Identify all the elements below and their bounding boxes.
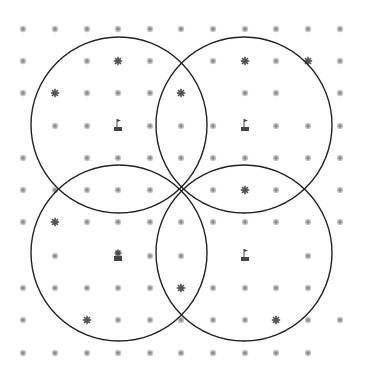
sensor-node-icon (84, 123, 90, 129)
sensor-node-icon (147, 26, 153, 32)
sensor-node-icon (305, 285, 311, 291)
sensor-node-icon (242, 317, 248, 323)
sensor-node-icon (20, 350, 26, 356)
sensor-node-icon (273, 90, 279, 96)
coverage-circles (31, 37, 332, 341)
sensor-node-icon (84, 58, 90, 64)
sensor-node-icon (337, 123, 343, 129)
sensor-node-icon (273, 285, 279, 291)
sensor-node-icon (305, 219, 311, 225)
sensor-node-icon (52, 350, 58, 356)
sensor-node-icon (20, 219, 26, 225)
sensor-node-icon (20, 155, 26, 161)
sensor-node-icon (242, 285, 248, 291)
sensor-node-icon (115, 219, 121, 225)
flag-with-star-icon (114, 250, 122, 262)
sensor-node-icon (337, 187, 343, 193)
sensor-node-icon (147, 253, 153, 259)
flag-icon (241, 119, 249, 131)
sensor-node-icon (84, 285, 90, 291)
sensor-node-icon (115, 155, 121, 161)
sensor-node-icon (178, 253, 184, 259)
sensor-node-icon (273, 58, 279, 64)
sensor-node-icon (115, 350, 121, 356)
sensor-node-icon (178, 219, 184, 225)
sensor-node-icon (242, 26, 248, 32)
star-node-icon (241, 57, 249, 65)
sensor-node-icon (20, 26, 26, 32)
sensor-node-icon (52, 26, 58, 32)
star-node-icon (51, 218, 59, 226)
sensor-node-icon (305, 123, 311, 129)
sensor-node-icon (84, 187, 90, 193)
sensor-node-icon (273, 123, 279, 129)
sensor-node-icon (115, 317, 121, 323)
sensor-node-icon (305, 253, 311, 259)
sensor-node-icon (305, 350, 311, 356)
sensor-node-icon (337, 219, 343, 225)
sensor-node-icon (84, 155, 90, 161)
sensor-node-icon (210, 285, 216, 291)
sensor-node-icon (20, 285, 26, 291)
sensor-node-icon (210, 123, 216, 129)
sensor-node-icon (273, 219, 279, 225)
sensor-node-icon (84, 26, 90, 32)
sensor-node-icon (273, 187, 279, 193)
sensor-node-icon (52, 123, 58, 129)
sensor-node-icon (52, 253, 58, 259)
star-node-icon (177, 284, 185, 292)
sensor-node-icon (305, 155, 311, 161)
sensor-node-icon (337, 317, 343, 323)
sensor-node-icon (52, 285, 58, 291)
sensor-node-icon (178, 123, 184, 129)
sensor-node-icon (147, 350, 153, 356)
sensor-node-icon (210, 219, 216, 225)
sensor-node-icon (305, 26, 311, 32)
sensor-node-icon (210, 350, 216, 356)
sensor-node-icon (20, 90, 26, 96)
diagram-canvas (0, 0, 366, 380)
sensor-node-icon (147, 285, 153, 291)
flag-icon (241, 249, 249, 261)
sensor-node-icon (242, 155, 248, 161)
sensor-node-icon (337, 90, 343, 96)
sensor-node-icon (147, 219, 153, 225)
star-node-icon (241, 186, 249, 194)
sensor-node-icon (337, 155, 343, 161)
star-node-icon (83, 316, 91, 324)
sensor-node-icon (147, 187, 153, 193)
sensor-node-icon (337, 26, 343, 32)
star-node-icon (272, 316, 280, 324)
sensor-node-icon (210, 155, 216, 161)
sensor-node-icon (273, 26, 279, 32)
sensor-node-icon (20, 317, 26, 323)
sensor-node-icon (115, 90, 121, 96)
sensor-node-icon (273, 350, 279, 356)
sensor-node-icon (147, 155, 153, 161)
sensor-node-icon (84, 219, 90, 225)
star-node-icon (177, 89, 185, 97)
sensor-node-icon (147, 123, 153, 129)
star-node-icon (51, 89, 59, 97)
sensor-node-icon (242, 219, 248, 225)
sensor-node-icon (20, 187, 26, 193)
sensor-node-icon (115, 285, 121, 291)
sensor-node-icon (178, 155, 184, 161)
sensor-node-icon (210, 187, 216, 193)
coverage-diagram (0, 0, 366, 380)
sensor-node-icon (242, 90, 248, 96)
sensor-node-icon (147, 317, 153, 323)
flag-icon (114, 119, 122, 131)
sensor-node-icon (337, 58, 343, 64)
sensor-node-icon (115, 187, 121, 193)
sensor-node-icon (210, 58, 216, 64)
sensor-node-icon (210, 317, 216, 323)
sensor-node-icon (178, 350, 184, 356)
star-node-icon (114, 57, 122, 65)
sensor-node-icon (147, 90, 153, 96)
sensor-node-icon (84, 90, 90, 96)
sensor-node-icon (178, 26, 184, 32)
sensor-node-icon (242, 350, 248, 356)
sensor-node-icon (147, 58, 153, 64)
sensor-node-icon (20, 58, 26, 64)
